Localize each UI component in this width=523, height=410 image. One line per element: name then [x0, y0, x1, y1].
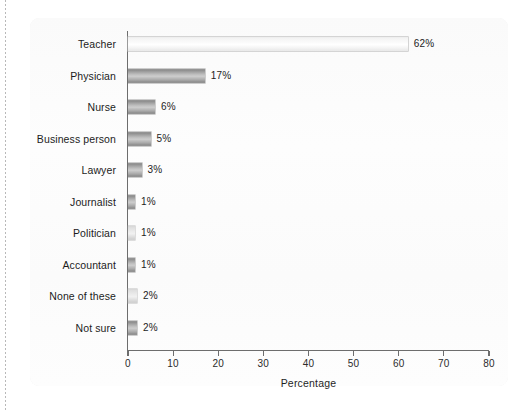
value-label-nurse: 6% [161, 93, 176, 121]
value-label-business-person: 5% [157, 125, 172, 153]
bar-row: Nurse6% [0, 93, 523, 121]
bar-nurse [128, 100, 155, 114]
category-label-journalist: Journalist [0, 188, 122, 216]
x-axis-title: Percentage [128, 377, 489, 389]
bar-wrap [128, 219, 135, 247]
bar-politician [128, 226, 135, 240]
bar-wrap [128, 282, 137, 310]
bar-accountant [128, 258, 135, 272]
x-tick-60 [398, 351, 399, 356]
x-tick-20 [218, 351, 219, 356]
category-label-lawyer: Lawyer [0, 156, 122, 184]
bar-row: None of these2% [0, 282, 523, 310]
bar-row: Lawyer3% [0, 156, 523, 184]
bar-physician [128, 69, 205, 83]
bar-wrap [128, 251, 135, 279]
bar-not-sure [128, 321, 137, 335]
bar-wrap [128, 314, 137, 342]
x-tick-label-20: 20 [212, 358, 224, 369]
value-label-physician: 17% [211, 62, 232, 90]
x-tick-50 [353, 351, 354, 356]
bar-chart: 01020304050607080 Teacher62%Physician17%… [0, 0, 523, 410]
x-tick-label-0: 0 [125, 358, 131, 369]
bar-row: Accountant1% [0, 251, 523, 279]
bar-business-person [128, 132, 151, 146]
category-label-none-of-these: None of these [0, 282, 122, 310]
bar-row: Business person5% [0, 125, 523, 153]
x-tick-label-10: 10 [167, 358, 179, 369]
bar-wrap [128, 188, 135, 216]
value-label-lawyer: 3% [148, 156, 163, 184]
bar-lawyer [128, 163, 142, 177]
category-label-business-person: Business person [0, 125, 122, 153]
value-label-accountant: 1% [141, 251, 156, 279]
category-label-not-sure: Not sure [0, 314, 122, 342]
bar-journalist [128, 195, 135, 209]
bar-row: Journalist1% [0, 188, 523, 216]
bar-wrap [128, 62, 205, 90]
category-label-accountant: Accountant [0, 251, 122, 279]
x-tick-label-70: 70 [438, 358, 450, 369]
bar-row: Teacher62% [0, 30, 523, 58]
bar-wrap [128, 156, 142, 184]
x-tick-label-40: 40 [303, 358, 315, 369]
x-tick-80 [488, 351, 489, 356]
x-tick-30 [263, 351, 264, 356]
bar-teacher [128, 37, 408, 51]
category-label-physician: Physician [0, 62, 122, 90]
value-label-not-sure: 2% [143, 314, 158, 342]
category-label-nurse: Nurse [0, 93, 122, 121]
value-label-politician: 1% [141, 219, 156, 247]
x-tick-label-60: 60 [393, 358, 405, 369]
x-tick-label-80: 80 [483, 358, 495, 369]
bar-wrap [128, 125, 151, 153]
category-label-politician: Politician [0, 219, 122, 247]
x-tick-label-50: 50 [348, 358, 360, 369]
value-label-journalist: 1% [141, 188, 156, 216]
bar-wrap [128, 93, 155, 121]
x-tick-10 [173, 351, 174, 356]
x-tick-0 [127, 351, 128, 356]
category-label-teacher: Teacher [0, 30, 122, 58]
bar-row: Physician17% [0, 62, 523, 90]
x-tick-label-30: 30 [258, 358, 270, 369]
x-tick-40 [308, 351, 309, 356]
bar-row: Politician1% [0, 219, 523, 247]
x-tick-70 [443, 351, 444, 356]
value-label-none-of-these: 2% [143, 282, 158, 310]
bar-row: Not sure2% [0, 314, 523, 342]
bar-none-of-these [128, 289, 137, 303]
bar-wrap [128, 30, 408, 58]
value-label-teacher: 62% [414, 30, 435, 58]
